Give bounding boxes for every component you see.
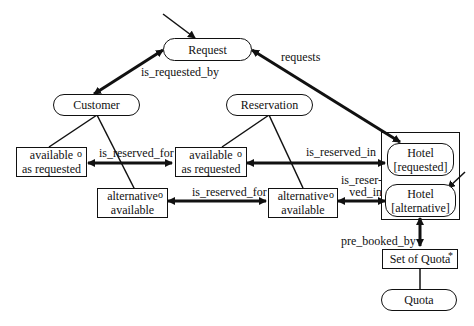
request-node[interactable]: Request bbox=[163, 38, 252, 61]
edge-label-is-reserved-in-2: is_reser- ved_in bbox=[340, 174, 382, 198]
hotel-requested-node[interactable]: Hotel [requested] bbox=[387, 143, 454, 176]
reservation-label: Reservation bbox=[241, 98, 298, 112]
node-label-line1: available bbox=[189, 148, 232, 162]
edge-label-is-reserved-in-1: is_reserved_in bbox=[306, 146, 376, 158]
edge-label-line2: ved_in bbox=[340, 186, 382, 198]
optional-marker: o bbox=[237, 149, 242, 159]
multiple-marker: * bbox=[448, 251, 453, 261]
edge-label-pre-booked-by: pre_booked_by bbox=[341, 235, 416, 247]
node-label-line1: alternative bbox=[107, 189, 158, 203]
node-label-line2: as requested bbox=[182, 162, 241, 176]
edge-label-is-reserved-for-1: is_reserved_for bbox=[99, 147, 174, 159]
node-label-line2: [requested] bbox=[394, 160, 448, 174]
node-label-line2: as requested bbox=[22, 162, 81, 176]
node-label-line1: alternative bbox=[278, 189, 329, 203]
quota-label: Quota bbox=[404, 293, 433, 307]
node-label-line2: [alternative] bbox=[391, 201, 450, 215]
edge-label-is-requested-by: is_requested_by bbox=[141, 66, 219, 78]
edge-label-requests: requests bbox=[281, 51, 320, 63]
optional-marker: o bbox=[77, 149, 82, 159]
customer-label: Customer bbox=[73, 98, 120, 112]
set-of-quota-node[interactable]: Set of Quota bbox=[382, 249, 458, 269]
node-label-line2: available bbox=[281, 203, 324, 217]
reservation-node[interactable]: Reservation bbox=[226, 94, 313, 116]
optional-marker: o bbox=[329, 190, 334, 200]
request-label: Request bbox=[188, 43, 227, 57]
quota-node[interactable]: Quota bbox=[381, 289, 457, 311]
set-of-quota-label: Set of Quota bbox=[390, 252, 451, 266]
node-label-line2: available bbox=[111, 203, 154, 217]
node-label-line1: Hotel bbox=[407, 187, 434, 201]
hotel-alternative-node[interactable]: Hotel [alternative] bbox=[385, 184, 456, 217]
reservation-alternative-available-node[interactable]: alternative available bbox=[268, 188, 338, 218]
node-label-line1: Hotel bbox=[407, 146, 434, 160]
optional-marker: o bbox=[158, 190, 163, 200]
node-label-line1: available bbox=[30, 148, 73, 162]
edge-label-is-reserved-for-2: is_reserved_for bbox=[192, 186, 267, 198]
customer-node[interactable]: Customer bbox=[53, 94, 140, 116]
